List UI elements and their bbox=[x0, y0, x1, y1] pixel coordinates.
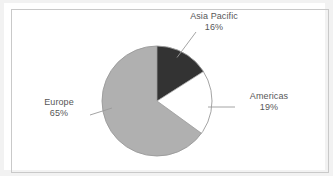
slice-label-europe-name: Europe bbox=[30, 97, 88, 108]
slice-label-asia-pacific-value: 16% bbox=[181, 22, 247, 33]
slice-label-europe-value: 65% bbox=[30, 108, 88, 119]
pie-chart-screenshot: Asia Pacific 16% Americas 19% Europe 65% bbox=[0, 0, 333, 176]
slice-label-americas-name: Americas bbox=[238, 91, 300, 102]
slice-label-europe: Europe 65% bbox=[30, 97, 88, 119]
pie-chart-graphic bbox=[0, 0, 333, 176]
chart-plot-area: Asia Pacific 16% Americas 19% Europe 65% bbox=[0, 0, 333, 176]
slice-label-americas-value: 19% bbox=[238, 102, 300, 113]
slice-label-americas: Americas 19% bbox=[238, 91, 300, 113]
leader-line-asia-pacific bbox=[177, 32, 196, 58]
slice-label-asia-pacific-name: Asia Pacific bbox=[181, 11, 247, 22]
slice-label-asia-pacific: Asia Pacific 16% bbox=[181, 11, 247, 33]
